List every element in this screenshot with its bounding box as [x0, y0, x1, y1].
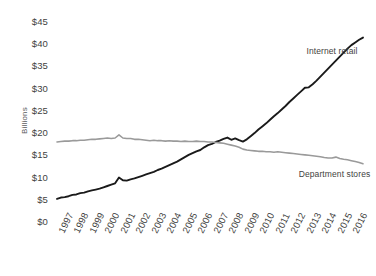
plot-area — [0, 0, 376, 276]
chart-container: Billions $0$5$10$15$20$25$30$35$40$45 19… — [0, 0, 376, 276]
series-label-internet-retail: Internet retail — [306, 46, 357, 56]
series-line-department-stores — [57, 135, 363, 164]
series-label-department-stores: Department stores — [299, 169, 371, 179]
